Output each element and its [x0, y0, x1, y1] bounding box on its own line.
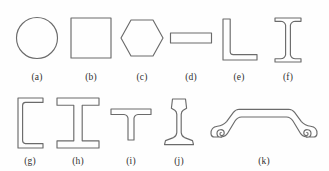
shape-label-e: (e) — [233, 73, 244, 83]
narrow-i-beam-tapered-flange-icon — [266, 11, 310, 69]
shape-label-i: (i) — [126, 157, 136, 167]
shape-label-d: (d) — [185, 73, 197, 83]
shape-label-h: (h) — [72, 157, 84, 167]
shape-cell-i: (i) — [104, 88, 158, 166]
shape-label-k: (k) — [258, 157, 270, 167]
shape-cell-b: (b) — [64, 6, 118, 82]
wide-flange-i-beam-icon — [54, 93, 102, 153]
cross-section-figure: (a) (b) (c) (d) — [0, 0, 329, 171]
shape-label-j: (j) — [174, 157, 184, 167]
flat-bar-plate-icon — [169, 11, 213, 69]
shape-cell-j: (j) — [156, 88, 202, 166]
shape-label-b: (b) — [85, 73, 97, 83]
shape-cell-h: (h) — [50, 88, 106, 166]
shape-cell-k: (k) — [202, 88, 326, 166]
shape-label-f: (f) — [283, 73, 293, 83]
shape-cell-c: (c) — [116, 6, 168, 82]
shape-cell-a: (a) — [8, 6, 66, 82]
railroad-rail-section-icon — [159, 93, 199, 153]
hexagonal-bar-icon — [120, 11, 164, 69]
shape-cell-f: (f) — [262, 6, 314, 82]
shape-cell-g: (g) — [6, 88, 54, 166]
angle-section-icon — [217, 11, 261, 69]
circular-round-bar-icon — [15, 11, 59, 69]
shape-cell-e: (e) — [214, 6, 264, 82]
tee-section-icon — [107, 93, 155, 153]
shape-cell-d: (d) — [166, 6, 216, 82]
channel-section-icon — [10, 93, 50, 153]
square-bar-icon — [69, 11, 113, 69]
shape-label-g: (g) — [24, 157, 36, 167]
shape-label-c: (c) — [136, 73, 147, 83]
shape-label-a: (a) — [31, 73, 42, 83]
sheet-pile-section-icon — [205, 93, 323, 153]
